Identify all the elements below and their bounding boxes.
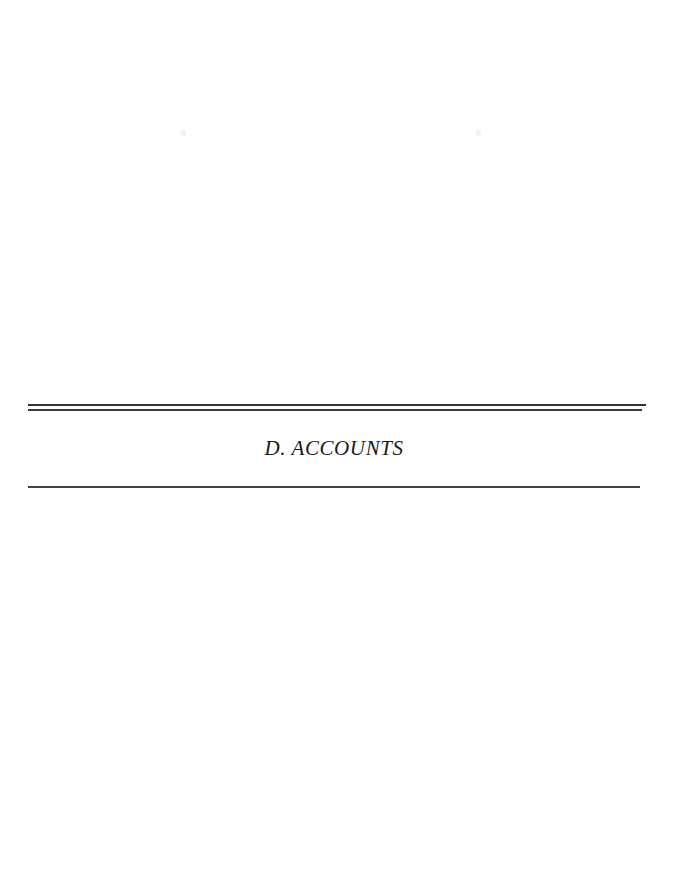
page-title: D. ACCOUNTS: [264, 436, 403, 460]
section-divider: D. ACCOUNTS: [28, 404, 646, 488]
scan-artifact-speck-left: [181, 130, 186, 136]
divider-rule-bottom: [28, 486, 640, 488]
scan-artifact-speck-right: [476, 130, 481, 136]
divider-rule-top-inner: [28, 409, 642, 411]
document-page: D. ACCOUNTS: [0, 0, 676, 876]
section-title-container: D. ACCOUNTS: [28, 436, 640, 461]
